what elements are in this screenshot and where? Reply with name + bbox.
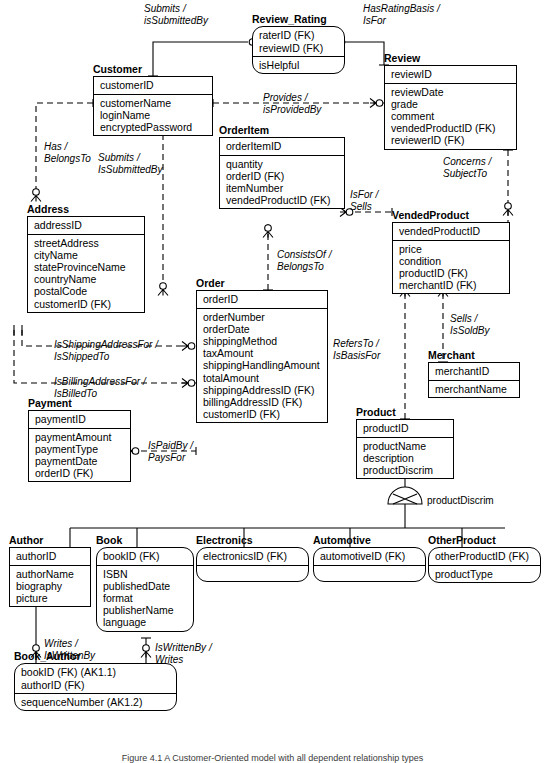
verb-line-1: IsPaidBy / (148, 440, 193, 452)
attr-pk: electronicsID (FK) (203, 550, 303, 563)
attr: sequenceNumber (AK1.2) (21, 696, 171, 708)
attr: merchantName (435, 383, 514, 395)
verb-line-1: RefersTo / (333, 338, 380, 350)
attr: customerID (FK) (203, 408, 322, 420)
entity-title-vendedproduct: VendedProduct (392, 209, 469, 222)
verb-line-1: Submits / (144, 3, 208, 15)
entity-address[interactable]: Address addressID streetAddress cityName… (27, 216, 145, 313)
verb-refersto: RefersTo / IsBasisFor (333, 338, 380, 361)
verb-submits-order: Submits / IsSubmittedBy (98, 152, 162, 175)
attr-block-otherproduct: productType (429, 566, 540, 582)
attr-block-automotive (314, 566, 425, 581)
entity-title-review-rating: Review_Rating (252, 13, 327, 26)
attr-block-merchant: merchantName (429, 381, 519, 397)
entity-title-merchant: Merchant (428, 349, 475, 362)
verb-line-2: BelongsTo (277, 261, 331, 273)
attr-pk: bookID (FK) (AK1.1) (21, 666, 171, 679)
attr-pk: paymentID (35, 413, 125, 426)
verb-concerns: Concerns / SubjectTo (443, 156, 491, 179)
attr-block-electronics (197, 566, 308, 581)
verb-line-2: isSubmittedBy (144, 15, 208, 27)
attr-pk: reviewID (FK) (259, 42, 339, 55)
entity-product[interactable]: Product productID productName descriptio… (356, 419, 454, 479)
entity-orderitem[interactable]: OrderItem orderItemID quantity orderID (… (219, 137, 345, 209)
verb-line-2: IsBilledTo (54, 388, 146, 400)
attr: paymentType (35, 443, 125, 455)
entity-electronics[interactable]: Electronics electronicsID (FK) (196, 547, 309, 582)
entity-customer[interactable]: Customer customerID customerName loginNa… (93, 76, 213, 136)
verb-line-2: IsSoldBy (450, 325, 489, 337)
verb-line-2: IsWrittenBy (44, 650, 95, 662)
verb-line-2: Writes (155, 654, 212, 666)
verb-consistsof: ConsistsOf / BelongsTo (277, 249, 331, 272)
pk-block-otherproduct: otherProductID (FK) (429, 548, 540, 566)
entity-book-author[interactable]: Book_Author bookID (FK) (AK1.1) authorID… (14, 663, 177, 711)
attr-block-payment: paymentAmount paymentType paymentDate or… (29, 429, 130, 482)
entity-payment[interactable]: Payment paymentID paymentAmount paymentT… (28, 410, 131, 482)
attr-pk: authorID (16, 550, 85, 563)
attr-pk: automotiveID (FK) (320, 550, 420, 563)
attr-pk: orderItemID (226, 140, 339, 153)
verb-line-1: Has / (44, 141, 91, 153)
entity-review-rating[interactable]: Review_Rating raterID (FK) reviewID (FK)… (252, 26, 345, 74)
entity-order[interactable]: Order orderID orderNumber orderDate ship… (196, 290, 328, 423)
attr: loginName (100, 109, 207, 121)
attr: reviewDate (391, 86, 511, 98)
attr: stateProvinceName (34, 261, 139, 273)
figure-caption: Figure 4.1 A Customer-Oriented model wit… (0, 753, 545, 763)
entity-automotive[interactable]: Automotive automotiveID (FK) (313, 547, 426, 582)
verb-line-2: Sells (350, 201, 378, 213)
attr-pk: addressID (34, 219, 139, 232)
entity-title-product: Product (356, 406, 396, 419)
attr: billingAddressID (FK) (203, 396, 322, 408)
entity-merchant[interactable]: Merchant merchantID merchantName (428, 362, 520, 398)
entity-review[interactable]: Review reviewID reviewDate grade comment… (384, 65, 517, 150)
attr: totalAmount (203, 372, 322, 384)
attr: productID (FK) (399, 267, 504, 279)
verb-line-1: ConsistsOf / (277, 249, 331, 261)
attr: cityName (34, 249, 139, 261)
entity-author[interactable]: Author authorID authorName biography pic… (9, 547, 91, 607)
verb-shipping-address: IsShippingAddressFor / IsShippedTo (54, 339, 158, 362)
attr: productName (363, 440, 448, 452)
pk-block-electronics: electronicsID (FK) (197, 548, 308, 566)
entity-otherproduct[interactable]: OtherProduct otherProductID (FK) product… (428, 547, 541, 583)
attr: orderID (FK) (226, 170, 339, 182)
attr-pk: merchantID (435, 365, 514, 378)
attr: paymentDate (35, 455, 125, 467)
entity-vendedproduct[interactable]: VendedProduct vendedProductID price cond… (392, 222, 510, 294)
attr: taxAmount (203, 347, 322, 359)
verb-line-1: Writes / (44, 638, 95, 650)
entity-book[interactable]: Book bookID (FK) ISBN publishedDate form… (96, 547, 194, 632)
entity-title-orderitem: OrderItem (219, 124, 269, 137)
attr-pk: customerID (100, 79, 207, 92)
attr: quantity (226, 158, 339, 170)
attr-block-review-rating: isHelpful (253, 57, 344, 73)
entity-title-electronics: Electronics (196, 534, 253, 547)
pk-block-vendedproduct: vendedProductID (393, 223, 509, 241)
attr: picture (16, 592, 85, 604)
pk-block-review-rating: raterID (FK) reviewID (FK) (253, 27, 344, 57)
verb-has-belongsto: Has / BelongsTo (44, 141, 91, 164)
pk-block-merchant: merchantID (429, 363, 519, 381)
attr-block-product: productName description productDiscrim (357, 438, 453, 479)
attr-block-address: streetAddress cityName stateProvinceName… (28, 235, 144, 312)
verb-line-1: Submits / (98, 152, 162, 164)
verb-line-1: Concerns / (443, 156, 491, 168)
attr: productType (435, 568, 535, 580)
attr: encryptedPassword (100, 121, 207, 133)
attr: orderNumber (203, 311, 322, 323)
attr-pk: reviewID (391, 68, 511, 81)
attr-pk: raterID (FK) (259, 29, 339, 42)
attr: format (103, 592, 188, 604)
verb-line-1: IsWrittenBy / (155, 642, 212, 654)
verb-line-1: HasRatingBasis / (363, 3, 440, 15)
attr-pk: vendedProductID (399, 225, 504, 238)
attr-pk: productID (363, 422, 448, 435)
attr: isHelpful (259, 59, 339, 71)
attr-pk: orderID (203, 293, 322, 306)
attr: biography (16, 580, 85, 592)
entity-title-automotive: Automotive (313, 534, 371, 547)
attr-pk: otherProductID (FK) (435, 550, 535, 563)
attr: orderID (FK) (35, 467, 125, 479)
